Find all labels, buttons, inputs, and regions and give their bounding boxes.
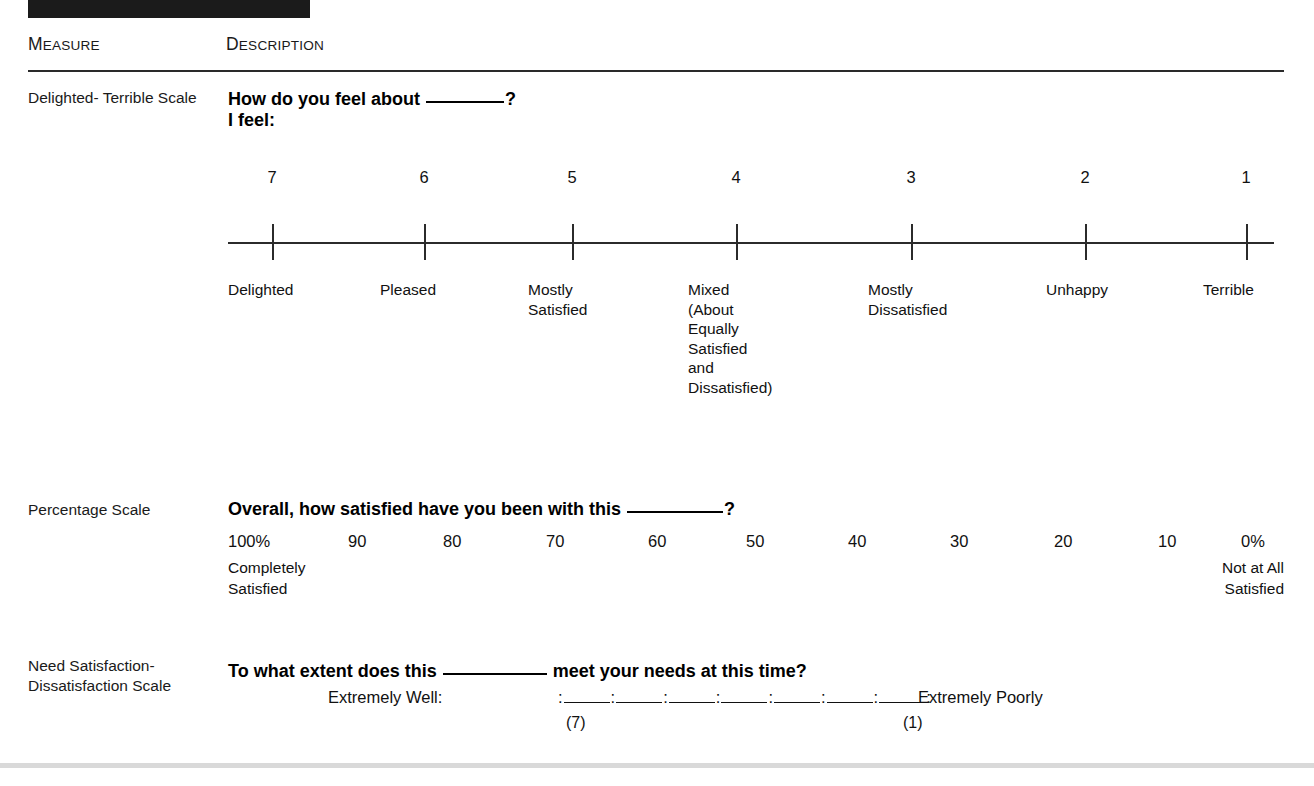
question-delighted-terrible: How do you feel about ?: [228, 88, 516, 110]
column-header-description-initial: D: [226, 34, 239, 54]
need-scale-blank-3: [669, 692, 715, 703]
column-header-description: DESCRIPTION: [226, 34, 324, 55]
scale-tick-3: [911, 224, 913, 260]
percentage-value-80: 80: [443, 532, 461, 551]
question-text-part-1: How do you feel about: [228, 89, 425, 109]
need-scale-note-high: (7): [566, 714, 586, 732]
percentage-value-0: 0%: [1241, 532, 1265, 551]
need-satisfaction-scale: Extremely Well: :::::::: Extremely Poorl…: [228, 688, 1284, 748]
percentage-value-100: 100%: [228, 532, 270, 551]
scale-tick-5: [572, 224, 574, 260]
percentage-anchor-completely-satisfied: Completely Satisfied: [228, 557, 306, 599]
scale-anchor-pleased: Pleased: [380, 280, 530, 300]
scale-number-7: 7: [267, 168, 276, 187]
need-anchor-extremely-well: Extremely Well:: [328, 688, 442, 707]
percentage-scale: 100% 90 80 70 60 50 40 30 20 10 0% Compl…: [228, 532, 1284, 612]
percentage-value-30: 30: [950, 532, 968, 551]
need-scale-blank-5: [774, 692, 820, 703]
measure-label-percentage: Percentage Scale: [28, 500, 218, 520]
question-percentage: Overall, how satisfied have you been wit…: [228, 498, 735, 520]
scale-number-4: 4: [731, 168, 740, 187]
delighted-terrible-scale: 7 6 5 4 3 2 1 Delighted Pleased Mostly S…: [228, 168, 1284, 418]
scale-tick-1: [1246, 224, 1248, 260]
scale-number-5: 5: [567, 168, 576, 187]
scale-tick-2: [1085, 224, 1087, 260]
scale-number-2: 2: [1080, 168, 1089, 187]
table-column-headers: MEASURE DESCRIPTION: [28, 34, 1284, 60]
need-scale-blank-6: [827, 692, 873, 703]
fill-in-blank: [627, 511, 723, 513]
question-need-satisfaction: To what extent does this meet your needs…: [228, 660, 807, 682]
column-header-measure-rest: EASURE: [43, 38, 100, 53]
question-text-part-1: To what extent does this: [228, 661, 442, 681]
percentage-value-20: 20: [1054, 532, 1072, 551]
scale-anchor-mixed: Mixed (About Equally Satisfied and Dissa…: [688, 280, 838, 397]
subprompt-i-feel: I feel:: [228, 110, 275, 131]
footer-divider-rule: [0, 763, 1314, 768]
scale-tick-4: [736, 224, 738, 260]
scale-tick-7: [272, 224, 274, 260]
need-scale-blanks: ::::::::: [558, 688, 931, 707]
header-divider-rule: [28, 70, 1284, 72]
scale-tick-6: [424, 224, 426, 260]
scale-anchor-delighted: Delighted: [228, 280, 378, 300]
need-scale-note-low: (1): [903, 714, 923, 732]
percentage-value-60: 60: [648, 532, 666, 551]
scale-axis-line: [228, 242, 1274, 244]
fill-in-blank: [426, 101, 504, 103]
scale-number-6: 6: [419, 168, 428, 187]
column-header-measure: MEASURE: [28, 34, 100, 55]
percentage-value-70: 70: [546, 532, 564, 551]
need-scale-blank-4: [721, 692, 767, 703]
scale-anchor-terrible: Terrible: [1203, 280, 1314, 300]
percentage-value-10: 10: [1158, 532, 1176, 551]
scale-anchor-mostly-dissatisfied: Mostly Dissatisfied: [868, 280, 1018, 319]
title-bar: [28, 0, 310, 18]
measure-label-need-satisfaction: Need Satisfaction- Dissatisfaction Scale: [28, 656, 218, 695]
column-header-description-rest: ESCRIPTION: [239, 38, 324, 53]
scale-number-1: 1: [1241, 168, 1250, 187]
percentage-value-40: 40: [848, 532, 866, 551]
question-text-part-2: ?: [724, 499, 735, 519]
need-anchor-extremely-poorly: Extremely Poorly: [918, 688, 1043, 707]
column-header-measure-initial: M: [28, 34, 43, 54]
need-scale-blank-2: [616, 692, 662, 703]
fill-in-blank: [443, 673, 547, 675]
question-text-part-2: ?: [505, 89, 516, 109]
measure-label-delighted-terrible: Delighted- Terrible Scale: [28, 88, 218, 108]
question-text-part-1: Overall, how satisfied have you been wit…: [228, 499, 626, 519]
need-scale-blank-1: [564, 692, 610, 703]
scale-number-3: 3: [906, 168, 915, 187]
percentage-value-50: 50: [746, 532, 764, 551]
scale-anchor-unhappy: Unhappy: [1046, 280, 1196, 300]
percentage-value-90: 90: [348, 532, 366, 551]
scale-anchor-mostly-satisfied: Mostly Satisfied: [528, 280, 678, 319]
percentage-anchor-not-at-all-satisfied: Not at All Satisfied: [1222, 557, 1284, 599]
question-text-part-2: meet your needs at this time?: [548, 661, 807, 681]
